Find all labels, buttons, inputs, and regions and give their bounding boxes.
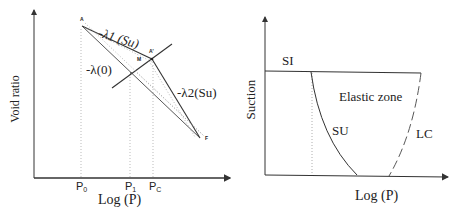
point-a-label: A (80, 17, 84, 22)
elastic-zone-label: Elastic zone (339, 90, 402, 103)
x-axis-label: Log (P) (98, 193, 141, 207)
void-ratio-diagram: A A' M F -λ1 (Su) -λ(0) -λ2(Su) P0 P1 PC… (0, 0, 232, 219)
point-m-marker (130, 72, 132, 74)
tick-pc: PC (149, 181, 161, 193)
lambda0-label: -λ(0) (86, 63, 112, 76)
point-f-label: F (205, 136, 208, 141)
x-axis-label: Log (P) (355, 189, 398, 203)
x-axis (265, 175, 448, 177)
point-a-prime-label: A' (149, 49, 154, 54)
su-label: SU (332, 124, 349, 137)
suction-plot-lines (232, 0, 449, 219)
lc-label: LC (416, 127, 433, 140)
crossing-line (112, 44, 172, 88)
point-m-label: M (137, 57, 141, 62)
lambda2-label: -λ2(Su) (177, 86, 217, 99)
y-axis-label: Void ratio (9, 70, 21, 128)
si-label: SI (282, 54, 294, 67)
dotted-diagonal-3 (135, 71, 204, 136)
tick-p0: P0 (76, 181, 87, 193)
suction-diagram: SI Elastic zone SU LC Log (P) Suction (232, 0, 449, 219)
si-line (265, 71, 421, 73)
point-a-prime-marker (151, 58, 153, 60)
lambda0-line (82, 26, 200, 138)
y-axis-label: Suction (244, 73, 257, 127)
